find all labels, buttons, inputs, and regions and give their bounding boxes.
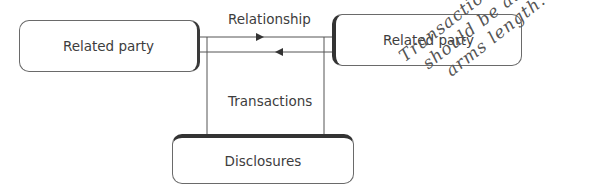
relationship-label: Relationship [228, 11, 311, 27]
arrow-right-icon [256, 33, 264, 41]
related-party-left-box: Related party [19, 20, 200, 72]
related-party-left-label: Related party [63, 38, 154, 54]
disclosures-label: Disclosures [225, 153, 302, 169]
arrow-left-icon [275, 48, 283, 56]
disclosures-box: Disclosures [172, 134, 354, 184]
diagram-canvas: Related party Related party Relationship… [0, 0, 590, 195]
transactions-label: Transactions [228, 93, 312, 109]
